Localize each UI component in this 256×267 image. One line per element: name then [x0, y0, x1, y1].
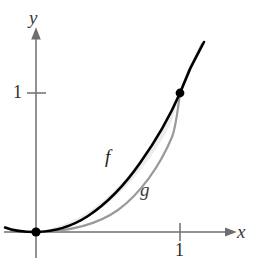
math-figure: y x 1 1 f g — [0, 0, 256, 267]
curve-f — [5, 42, 204, 232]
x-axis-tick-label-1: 1 — [175, 241, 184, 259]
figure-canvas — [0, 0, 256, 267]
curve-label-g: g — [140, 180, 150, 199]
curve-label-f: f — [105, 147, 110, 166]
x-axis-label: x — [237, 222, 245, 241]
y-axis-label: y — [29, 8, 37, 27]
intersection-point-origin — [31, 227, 40, 236]
y-axis-tick-label-1: 1 — [13, 83, 22, 101]
intersection-point-one-one — [176, 89, 185, 98]
curve-g — [36, 44, 202, 232]
